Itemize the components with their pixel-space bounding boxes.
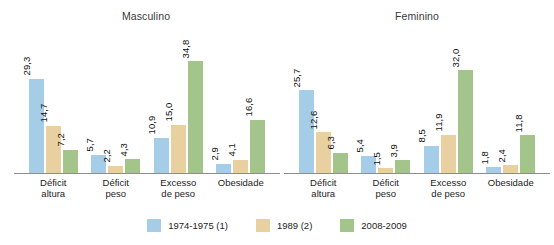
category-label: Excesso de peso bbox=[417, 177, 480, 199]
bar-value-label: 14,7 bbox=[39, 104, 49, 123]
bar-value-label: 15,0 bbox=[164, 103, 174, 122]
legend-item[interactable]: 1974-1975 (1) bbox=[147, 219, 228, 232]
bar-groups-feminino: 25,712,66,35,41,53,98,511,932,01,82,411,… bbox=[292, 30, 542, 173]
plot-area-feminino: 25,712,66,35,41,53,98,511,932,01,82,411,… bbox=[292, 30, 542, 173]
bar[interactable] bbox=[108, 166, 123, 173]
bar-slot: 3,9 bbox=[395, 30, 410, 173]
bar-value-label: 5,4 bbox=[354, 139, 364, 153]
bar[interactable] bbox=[458, 70, 473, 173]
bar-group: 10,915,034,8 bbox=[147, 30, 210, 173]
bar-slot: 4,3 bbox=[125, 30, 140, 173]
bar-value-label: 4,3 bbox=[118, 143, 128, 157]
category-label: Déficit peso bbox=[355, 177, 418, 199]
bar[interactable] bbox=[395, 160, 410, 173]
bar-slot: 32,0 bbox=[458, 30, 473, 173]
bar-value-label: 2,4 bbox=[496, 149, 506, 163]
bar-value-label: 11,8 bbox=[513, 114, 523, 132]
bar-value-label: 34,8 bbox=[181, 39, 191, 58]
bar-group: 5,72,24,3 bbox=[85, 30, 148, 173]
bar[interactable] bbox=[441, 135, 456, 173]
bar-slot: 14,7 bbox=[46, 30, 61, 173]
bar-value-label: 10,9 bbox=[147, 116, 157, 135]
category-label: Déficit altura bbox=[22, 177, 85, 199]
x-axis-line-feminino bbox=[284, 173, 550, 174]
bar-value-label: 4,1 bbox=[226, 143, 236, 157]
category-label: Déficit peso bbox=[85, 177, 148, 199]
bar-value-label: 29,3 bbox=[22, 57, 32, 76]
category-label: Excesso de peso bbox=[147, 177, 210, 199]
bar-group: 29,314,77,2 bbox=[22, 30, 85, 173]
bar[interactable] bbox=[216, 164, 231, 173]
bar-slot: 11,8 bbox=[520, 30, 535, 173]
bar[interactable] bbox=[233, 160, 248, 173]
legend-item[interactable]: 2008-2009 bbox=[340, 219, 406, 232]
bar[interactable] bbox=[188, 61, 203, 173]
bar-value-label: 5,7 bbox=[84, 138, 94, 152]
bar-value-label: 7,2 bbox=[56, 133, 66, 147]
bar-group: 1,82,411,8 bbox=[480, 30, 543, 173]
grouped-bar-chart: Masculino Feminino 29,314,77,25,72,24,31… bbox=[0, 0, 554, 245]
legend-swatch bbox=[340, 219, 354, 232]
category-label: Déficit altura bbox=[292, 177, 355, 199]
bar-slot: 16,6 bbox=[250, 30, 265, 173]
bar[interactable] bbox=[250, 120, 265, 173]
bar-slot: 10,9 bbox=[154, 30, 169, 173]
bar-value-label: 16,6 bbox=[243, 98, 253, 117]
bar-value-label: 8,5 bbox=[417, 129, 427, 143]
legend-label: 1974-1975 (1) bbox=[168, 220, 228, 231]
bar-slot: 12,6 bbox=[316, 30, 331, 173]
bar-value-label: 25,7 bbox=[292, 68, 302, 87]
bar[interactable] bbox=[520, 135, 535, 173]
bar[interactable] bbox=[299, 90, 314, 173]
bar-group: 8,511,932,0 bbox=[417, 30, 480, 173]
bar-value-label: 12,6 bbox=[309, 111, 319, 130]
bar[interactable] bbox=[333, 153, 348, 173]
bar-value-label: 32,0 bbox=[451, 48, 461, 67]
bar-slot: 34,8 bbox=[188, 30, 203, 173]
bar-value-label: 11,9 bbox=[434, 114, 444, 132]
bar[interactable] bbox=[503, 165, 518, 173]
bar-slot: 2,4 bbox=[503, 30, 518, 173]
bar-slot: 29,3 bbox=[29, 30, 44, 173]
bar-slot: 7,2 bbox=[63, 30, 78, 173]
bar[interactable] bbox=[171, 125, 186, 173]
bar-group: 5,41,53,9 bbox=[355, 30, 418, 173]
bar-group: 25,712,66,3 bbox=[292, 30, 355, 173]
panel-title-feminino: Feminino bbox=[357, 10, 477, 22]
bar-value-label: 6,3 bbox=[326, 136, 336, 150]
legend-swatch bbox=[256, 219, 270, 232]
bar[interactable] bbox=[424, 146, 439, 173]
bar-value-label: 2,9 bbox=[209, 147, 219, 161]
bar-slot: 6,3 bbox=[333, 30, 348, 173]
category-labels-masculino: Déficit alturaDéficit pesoExcesso de pes… bbox=[22, 177, 272, 199]
bar[interactable] bbox=[154, 138, 169, 173]
bar-value-label: 3,9 bbox=[388, 144, 398, 158]
bar-value-label: 1,5 bbox=[371, 152, 381, 166]
category-label: Obesidade bbox=[480, 177, 543, 199]
legend-swatch bbox=[147, 219, 161, 232]
panel-title-masculino: Masculino bbox=[86, 10, 206, 22]
legend-item[interactable]: 1989 (2) bbox=[256, 219, 312, 232]
bar-group: 2,94,116,6 bbox=[210, 30, 273, 173]
x-axis-line-masculino bbox=[14, 173, 280, 174]
bar[interactable] bbox=[125, 159, 140, 173]
bar-slot: 25,7 bbox=[299, 30, 314, 173]
bar-value-label: 2,2 bbox=[101, 149, 111, 163]
category-label: Obesidade bbox=[210, 177, 273, 199]
legend-label: 2008-2009 bbox=[361, 220, 406, 231]
bar-value-label: 1,8 bbox=[479, 151, 489, 165]
category-labels-feminino: Déficit alturaDéficit pesoExcesso de pes… bbox=[292, 177, 542, 199]
chart-legend: 1974-1975 (1)1989 (2)2008-2009 bbox=[0, 219, 554, 232]
plot-area-masculino: 29,314,77,25,72,24,310,915,034,82,94,116… bbox=[22, 30, 272, 173]
bar-groups-masculino: 29,314,77,25,72,24,310,915,034,82,94,116… bbox=[22, 30, 272, 173]
bar-slot: 8,5 bbox=[424, 30, 439, 173]
bar[interactable] bbox=[63, 150, 78, 173]
bar[interactable] bbox=[29, 79, 44, 173]
legend-label: 1989 (2) bbox=[277, 220, 312, 231]
